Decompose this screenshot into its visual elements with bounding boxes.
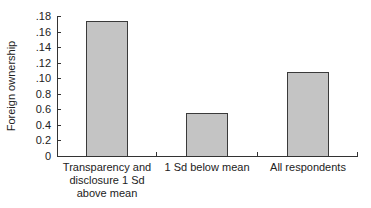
x-tick-mark [357, 152, 358, 156]
y-tick-label: 0.2 [21, 134, 51, 146]
y-tick-label: 0.4 [21, 119, 51, 131]
y-tick-label: .18 [21, 10, 51, 22]
y-tick-mark [57, 63, 61, 64]
y-tick-mark [57, 32, 61, 33]
x-category-label-line: disclosure 1 Sd [57, 174, 157, 187]
x-axis-line [57, 156, 358, 157]
y-axis-label: Foreign ownership [5, 41, 17, 132]
y-tick-label: .12 [21, 57, 51, 69]
x-category-label: Transparency and disclosure 1 Sd above m… [57, 161, 157, 200]
y-tick-label: .16 [21, 26, 51, 38]
y-tick-label: 0 [21, 150, 51, 162]
x-tick-mark [257, 152, 258, 156]
y-tick-label: 0.8 [21, 88, 51, 100]
y-tick-label: .14 [21, 41, 51, 53]
x-tick-mark [156, 152, 157, 156]
bar-chart: Foreign ownership .18 .16 .14 .12 .10 0.… [0, 0, 371, 208]
y-tick-mark [57, 16, 61, 17]
y-tick-mark [57, 140, 61, 141]
y-tick-label: 0.6 [21, 103, 51, 115]
y-tick-mark [57, 125, 61, 126]
y-tick-mark [57, 94, 61, 95]
x-category-label: 1 Sd below mean [157, 161, 257, 174]
x-category-label: All respondents [258, 161, 358, 174]
bar-below-mean [186, 113, 228, 157]
y-tick-mark [57, 47, 61, 48]
y-tick-mark [57, 109, 61, 110]
bar-transparency-above-mean [86, 21, 128, 157]
x-category-label-line: All respondents [258, 161, 358, 174]
x-category-label-line: 1 Sd below mean [157, 161, 257, 174]
y-tick-mark [57, 78, 61, 79]
y-axis-line [57, 16, 58, 156]
x-category-label-line: above mean [57, 187, 157, 200]
bar-all-respondents [287, 72, 329, 157]
x-category-label-line: Transparency and [57, 161, 157, 174]
y-tick-label: .10 [21, 72, 51, 84]
